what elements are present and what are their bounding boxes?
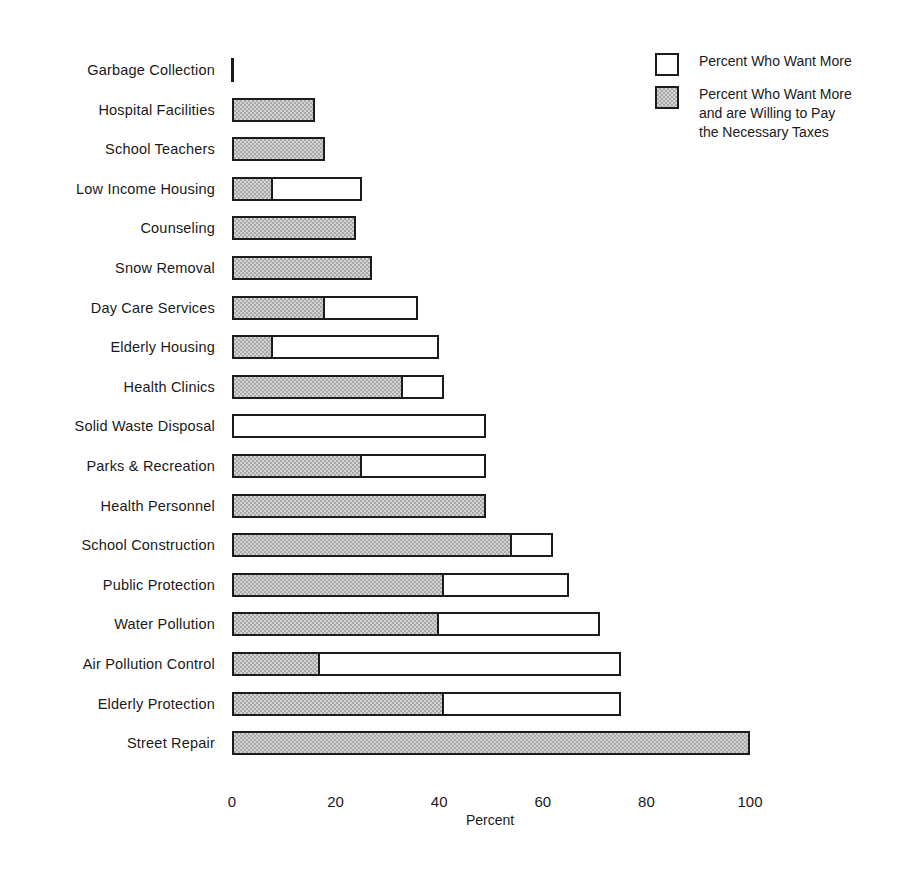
category-label: Garbage Collection: [0, 63, 215, 78]
x-tick-label: 20: [327, 793, 344, 810]
bar-segment-willing-to-pay: [232, 335, 273, 359]
x-axis-title-text: Percent: [466, 812, 514, 828]
bar-segment-willing-to-pay: [232, 454, 362, 478]
category-label: Solid Waste Disposal: [0, 419, 215, 434]
legend-label-want-more: Percent Who Want More: [699, 52, 915, 71]
category-label: School Construction: [0, 538, 215, 553]
category-label: Snow Removal: [0, 261, 215, 276]
bar-segment-willing-to-pay: [232, 731, 750, 755]
bar-zero-marker: [231, 58, 234, 82]
bar-segment-willing-to-pay: [232, 375, 403, 399]
horizontal-bar-chart: Garbage CollectionHospital FacilitiesSch…: [0, 0, 920, 885]
category-axis-labels: Garbage CollectionHospital FacilitiesSch…: [0, 0, 215, 885]
category-label: Low Income Housing: [0, 182, 215, 197]
x-tick-label: 40: [431, 793, 448, 810]
x-axis: 020406080100: [232, 789, 832, 790]
category-label: Street Repair: [0, 736, 215, 751]
category-label: Water Pollution: [0, 617, 215, 632]
category-label: Day Care Services: [0, 301, 215, 316]
x-axis-title: Percent: [0, 812, 920, 828]
chart-legend: Percent Who Want More Percent Who Want M…: [655, 52, 915, 156]
bar-segment-willing-to-pay: [232, 692, 444, 716]
x-tick-label: 0: [228, 793, 236, 810]
bar-segment-willing-to-pay: [232, 256, 372, 280]
x-tick-label: 100: [737, 793, 762, 810]
category-label: Parks & Recreation: [0, 459, 215, 474]
category-label: Health Personnel: [0, 499, 215, 514]
bar-segment-willing-to-pay: [232, 296, 325, 320]
x-tick-label: 60: [534, 793, 551, 810]
category-label: Counseling: [0, 221, 215, 236]
category-label: School Teachers: [0, 142, 215, 157]
legend-label-willing-to-pay: Percent Who Want More and are Willing to…: [699, 85, 915, 142]
bar-segment-willing-to-pay: [232, 573, 444, 597]
bar-segment-willing-to-pay: [232, 533, 512, 557]
legend-swatch-white: [655, 53, 679, 76]
bar-segment-willing-to-pay: [232, 177, 273, 201]
bar-segment-willing-to-pay: [232, 98, 315, 122]
bar-segment-want-more: [232, 414, 486, 438]
bar-segment-willing-to-pay: [232, 137, 325, 161]
category-label: Public Protection: [0, 578, 215, 593]
legend-swatch-hatched: [655, 86, 679, 109]
bar-segment-willing-to-pay: [232, 652, 320, 676]
x-tick-label: 80: [638, 793, 655, 810]
bar-segment-willing-to-pay: [232, 494, 486, 518]
category-label: Elderly Protection: [0, 697, 215, 712]
category-label: Health Clinics: [0, 380, 215, 395]
category-label: Air Pollution Control: [0, 657, 215, 672]
category-label: Hospital Facilities: [0, 103, 215, 118]
bar-segment-willing-to-pay: [232, 612, 439, 636]
category-label: Elderly Housing: [0, 340, 215, 355]
legend-entry-willing-to-pay: Percent Who Want More and are Willing to…: [655, 85, 915, 142]
bar-segment-willing-to-pay: [232, 216, 356, 240]
legend-entry-want-more: Percent Who Want More: [655, 52, 915, 71]
